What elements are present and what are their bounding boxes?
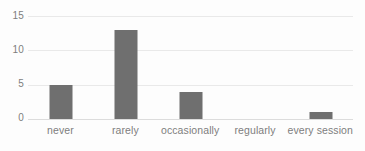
bar-slot-never (28, 16, 93, 119)
bar-slot-occasionally (158, 16, 223, 119)
gridline-0-baseline (28, 119, 353, 120)
plot-area (28, 16, 353, 119)
y-tick-label-5: 5 (0, 79, 24, 89)
x-axis-labels: never rarely occasionally regularly ever… (28, 124, 353, 136)
bar-occasionally[interactable] (179, 92, 202, 119)
bar-slot-every-session (288, 16, 353, 119)
x-tick-label-occasionally: occasionally (158, 124, 223, 136)
y-tick-label-15: 15 (0, 11, 24, 21)
y-tick-label-0: 0 (0, 113, 24, 123)
x-tick-label-every-session: every session (288, 124, 354, 136)
bar-slot-regularly (223, 16, 288, 119)
bar-chart: 15 10 5 0 never (0, 0, 365, 151)
x-tick-label-never: never (28, 124, 93, 136)
y-tick-label-10: 10 (0, 45, 24, 55)
bar-every-session[interactable] (309, 112, 332, 119)
x-tick-label-regularly: regularly (223, 124, 288, 136)
y-axis: 15 10 5 0 (0, 0, 24, 151)
bar-group (28, 16, 353, 119)
bar-slot-rarely (93, 16, 158, 119)
x-tick-label-rarely: rarely (93, 124, 158, 136)
bar-never[interactable] (49, 85, 72, 119)
bar-rarely[interactable] (114, 30, 137, 119)
